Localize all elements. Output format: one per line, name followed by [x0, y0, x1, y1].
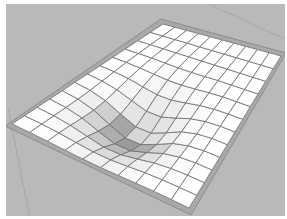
3d-viewport[interactable] [6, 4, 285, 216]
grid-mesh[interactable] [12, 24, 281, 208]
grid-mesh-scene [6, 4, 285, 216]
